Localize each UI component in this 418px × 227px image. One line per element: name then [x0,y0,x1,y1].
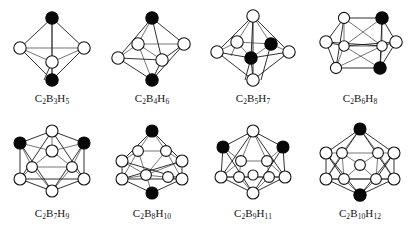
formula-count: 3 [53,97,57,106]
vertex-ch [354,189,366,201]
vertex-ch [354,123,366,135]
carborane-structure-figure: C2B3H5 [0,0,418,227]
formula-count: 7 [266,97,270,106]
formula-count: 2 [142,97,146,106]
vertex-bh [46,125,58,137]
vertex-ch [265,38,277,50]
vertex-bh [320,147,332,159]
vertex-ch [217,141,229,153]
vertex-ch [46,12,58,24]
formula-count: 4 [153,97,157,106]
formula-element: B [144,207,151,219]
vertex-bh [236,156,247,167]
vertex-bh [133,146,144,157]
structure-diagram-c2b9h11 [201,117,305,209]
structure-label-c2b3h5: C2B3H5 [0,92,104,104]
vertex-bh [141,170,152,181]
formula-count: 2 [346,212,350,221]
vertex-bh [247,187,259,199]
structure-cell-c2b9h11: C2B9H11 [201,117,305,227]
structure-cell-c2b4h6: C2B4H6 [100,2,204,115]
vertex-bh [337,148,348,159]
vertex-bh [388,147,400,159]
vertex-bh [355,160,366,171]
structure-cell-c2b5h7: C2B5H7 [201,2,305,115]
vertex-bh [247,74,259,86]
vertex-bh [46,145,58,157]
formula-count: 2 [350,97,354,106]
formula-count: 5 [65,97,69,106]
vertex-bh [283,46,295,58]
vertex-bh [234,172,245,183]
vertex-bh [279,171,291,183]
vertex-bh [178,38,190,50]
vertex-ch [146,187,158,199]
structure-diagram-c2b6h8 [308,2,412,94]
vertex-ch [146,12,158,24]
vertex-bh [373,148,384,159]
vertex-bh [163,172,174,183]
vertex-bh [211,46,223,58]
formula-count: 7 [53,212,57,221]
structure-label-c2b9h11: C2B9H11 [201,207,305,219]
structure-label-c2b8h10: C2B8H10 [100,207,204,219]
vertex-bh [339,41,349,51]
vertex-bh [371,174,382,185]
vertex-ch [376,12,388,24]
vertex-ch [245,52,257,64]
formula-count: 6 [165,97,169,106]
vertex-bh [67,162,78,173]
vertex-bh [247,10,259,22]
vertex-bh [78,173,90,185]
vertex-bh [46,185,58,197]
formula-count: 8 [152,212,156,221]
vertex-bh [176,173,188,185]
vertex-bh [339,174,350,185]
formula-count: 2 [42,97,46,106]
vertex-ch [46,74,58,86]
structure-cell-c2b6h8: C2B6H8 [308,2,412,115]
formula-count: 6 [361,97,365,106]
structure-diagram-c2b4h6 [100,2,204,94]
vertex-bh [112,52,124,64]
vertex-ch [277,141,289,153]
vertex-bh [78,42,90,54]
formula-count: 5 [254,97,258,106]
formula-count: 2 [42,212,46,221]
vertex-ch [78,137,90,149]
formula-count: 2 [140,212,144,221]
formula-count: 10 [163,212,171,221]
structure-label-c2b7h9: C2B7H9 [0,207,104,219]
formula-count: 9 [65,212,69,221]
formula-count: 9 [253,212,257,221]
vertex-bh [320,173,332,185]
vertex-ch [146,125,158,137]
vertex-bh [320,36,332,48]
vertex-bh [264,172,275,183]
vertex-bh [338,12,349,23]
vertex-bh [156,54,168,66]
vertex-bh [330,62,341,73]
vertex-bh [247,125,259,137]
formula-element: H [257,207,265,219]
formula-count: 2 [243,97,247,106]
structure-diagram-c2b5h7 [201,2,305,94]
vertex-bh [14,42,26,54]
formula-count: 8 [373,97,377,106]
vertex-bh [116,173,128,185]
vertex-bh [176,155,188,167]
structure-diagram-c2b7h9 [0,117,104,209]
vertex-ch [14,137,26,149]
vertex-bh [27,162,38,173]
vertex-bh [231,36,243,48]
structure-diagram-c2b10h12 [308,117,412,209]
formula-count: 12 [373,212,381,221]
formula-count: 10 [358,212,366,221]
formula-count: 11 [265,212,272,221]
structure-cell-c2b10h12: C2B10H12 [308,117,412,227]
vertex-ch [374,62,386,74]
structure-label-c2b5h7: C2B5H7 [201,92,305,104]
vertex-bh [161,146,172,157]
formula-count: 2 [241,212,245,221]
vertex-bh [132,38,144,50]
